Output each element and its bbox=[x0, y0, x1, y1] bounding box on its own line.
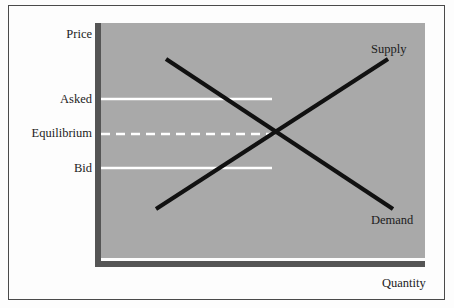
quantity-axis-label: Quantity bbox=[382, 277, 426, 290]
price-axis-label: Price bbox=[66, 28, 92, 41]
price-axis-bar bbox=[95, 23, 101, 261]
quantity-axis-bar bbox=[95, 261, 425, 267]
demand-curve-label: Demand bbox=[371, 214, 413, 227]
asked-level-label: Asked bbox=[60, 93, 92, 106]
equilibrium-level-label: Equilibrium bbox=[32, 127, 92, 140]
supply-demand-figure: Price Asked Equilibrium Bid Supply Deman… bbox=[0, 0, 454, 308]
bid-level-label: Bid bbox=[74, 162, 92, 175]
supply-curve-label: Supply bbox=[371, 43, 406, 56]
